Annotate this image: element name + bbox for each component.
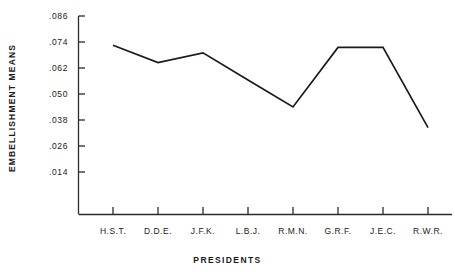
x-axis-tick-labels: H.S.T. D.D.E. J.F.K. L.B.J. R.M.N. G.R.F… <box>0 0 455 277</box>
x-axis-title: PRESIDENTS <box>0 255 455 265</box>
chart-figure: EMBELLISHMENT MEANS .086 .074 .062 .050 … <box>0 0 455 277</box>
x-tick-label: R.W.R. <box>398 226 455 236</box>
